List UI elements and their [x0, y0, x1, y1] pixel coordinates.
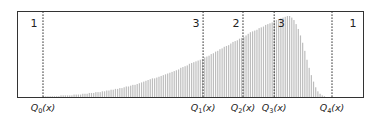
region-count-label: 3	[278, 17, 285, 30]
histogram-bar	[117, 89, 118, 97]
histogram-bar	[204, 57, 205, 97]
region-count-label: 2	[232, 17, 239, 30]
histogram-bar	[150, 79, 151, 97]
histogram-bar	[180, 68, 181, 97]
histogram-bar	[230, 44, 231, 97]
histogram-bar	[267, 24, 268, 97]
histogram-bar	[60, 95, 61, 97]
histogram-bar	[298, 29, 299, 97]
histogram-bar	[259, 28, 260, 97]
histogram-bar	[147, 80, 148, 97]
histogram-bar	[198, 61, 199, 97]
histogram-bar	[200, 60, 201, 97]
histogram-bar	[206, 57, 207, 98]
histogram-bar	[76, 95, 77, 97]
histogram-bar	[291, 18, 292, 97]
histogram-bar	[313, 82, 314, 97]
histogram-bar	[137, 84, 138, 97]
histogram-bar	[115, 89, 116, 97]
histogram-bar	[300, 35, 301, 97]
histogram-bar	[261, 27, 262, 97]
histogram-bar	[280, 18, 281, 97]
histogram-bar	[78, 95, 79, 97]
histogram-bar	[91, 93, 92, 97]
quantile-label-q0: Q0(x)	[31, 102, 56, 115]
histogram-bar	[128, 86, 129, 97]
histogram-bar	[169, 73, 170, 97]
quantile-histogram-chart: Q0(x)Q1(x)Q2(x)Q3(x)Q4(x) 13231	[0, 0, 369, 119]
histogram-bar	[208, 56, 209, 97]
histogram-bar	[65, 95, 66, 97]
region-count-label: 1	[31, 17, 38, 30]
histogram-bar	[309, 68, 310, 97]
histogram-bar	[263, 27, 264, 97]
histogram-bar	[211, 54, 212, 97]
histogram-bar	[278, 19, 279, 97]
histogram-bar	[243, 37, 244, 97]
histogram-bar	[248, 34, 249, 97]
histogram-bar	[132, 85, 133, 97]
histogram-bar	[285, 17, 286, 97]
histogram-bar	[56, 96, 57, 97]
histogram-bar	[232, 42, 233, 97]
histogram-bar	[245, 35, 246, 97]
histogram-bar	[141, 82, 142, 97]
histogram-bar	[158, 77, 159, 97]
histogram-bar	[250, 32, 251, 97]
histogram-bar	[322, 95, 323, 97]
histogram-bar	[174, 71, 175, 97]
histogram-bar	[237, 40, 238, 97]
histogram-bar	[306, 60, 307, 97]
histogram-bar	[97, 92, 98, 97]
histogram-bar	[87, 94, 88, 97]
histogram-bar	[296, 24, 297, 97]
histogram-bar	[176, 70, 177, 97]
histogram-bar	[47, 96, 48, 97]
histogram-bar	[265, 25, 266, 97]
histogram-bar	[187, 65, 188, 97]
histogram-bar	[311, 75, 312, 97]
histogram-bar	[315, 87, 316, 97]
histogram-bar	[252, 31, 253, 97]
quantile-label-q3: Q3(x)	[262, 102, 287, 115]
histogram-bar	[213, 53, 214, 97]
histogram-bar	[104, 91, 105, 97]
region-count-labels: 13231	[31, 17, 357, 30]
histogram-bar	[171, 72, 172, 97]
histogram-bar	[67, 95, 68, 97]
histogram-bar	[239, 39, 240, 97]
histogram-bar	[289, 16, 290, 97]
histogram-bar	[241, 38, 242, 97]
histogram-bar	[254, 31, 255, 97]
histogram-bar	[143, 82, 144, 97]
histogram-bar	[222, 48, 223, 97]
region-count-label: 3	[193, 17, 200, 30]
histogram-bar	[130, 86, 131, 97]
histogram-bar	[108, 91, 109, 97]
histogram-bar	[89, 93, 90, 97]
histogram-bar	[269, 23, 270, 97]
histogram-bar	[224, 47, 225, 97]
histogram-bar	[272, 22, 273, 97]
histogram-bar	[63, 95, 64, 97]
histogram-bar	[304, 51, 305, 97]
histogram-bar	[54, 96, 55, 97]
histogram-bar	[80, 95, 81, 97]
histogram-bar	[276, 20, 277, 97]
histogram-bar	[189, 64, 190, 97]
histogram-bar	[126, 86, 127, 97]
histogram-bar	[156, 78, 157, 97]
quantile-label-q4: Q4(x)	[320, 102, 345, 115]
histogram-bar	[82, 94, 83, 97]
histogram-bar	[139, 83, 140, 97]
histogram-bar	[154, 78, 155, 97]
histogram-bar	[161, 76, 162, 97]
histogram-bar	[145, 81, 146, 97]
histogram-bar	[235, 41, 236, 97]
quantile-label-q1: Q1(x)	[191, 102, 216, 115]
histogram-bar	[178, 69, 179, 97]
histogram-bar	[45, 96, 46, 97]
histogram-bar	[113, 90, 114, 97]
histogram-bar	[152, 78, 153, 97]
histogram-bar	[95, 92, 96, 97]
